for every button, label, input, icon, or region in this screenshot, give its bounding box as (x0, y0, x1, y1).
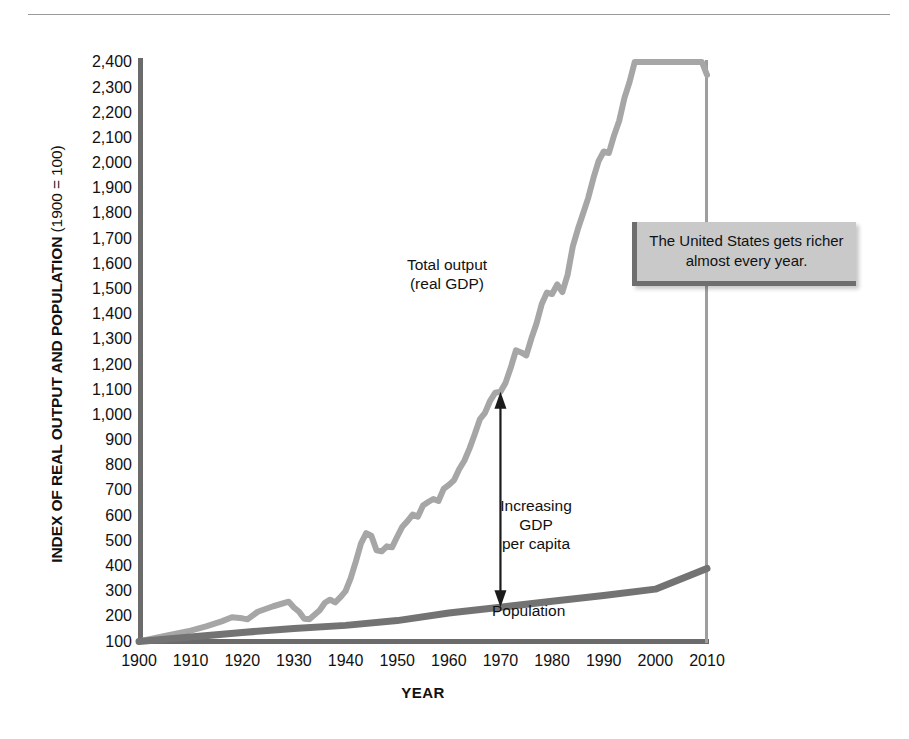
gdp-per-capita-label: Increasing GDP per capita (480, 496, 592, 553)
population-series-label: Population (492, 601, 612, 620)
population-line-series (139, 568, 707, 641)
gdp-series-label: Total output (real GDP) (372, 255, 522, 293)
axes (138, 58, 709, 643)
plot-area (0, 0, 909, 739)
gdp-line-series (139, 62, 707, 642)
gdp-population-index-chart: INDEX OF REAL OUTPUT AND POPULATION (190… (0, 0, 909, 739)
callout-box: The United States gets richer almost eve… (632, 222, 856, 286)
